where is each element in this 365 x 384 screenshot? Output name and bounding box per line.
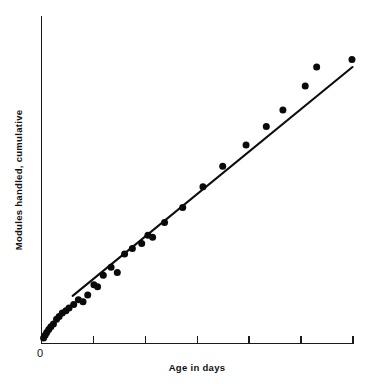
data-point	[108, 264, 115, 271]
data-point	[161, 219, 168, 226]
data-point	[129, 245, 136, 252]
data-point	[243, 141, 250, 148]
data-point	[179, 204, 186, 211]
data-point	[138, 240, 145, 247]
data-point	[279, 107, 286, 114]
data-point	[121, 250, 128, 257]
data-point	[94, 283, 101, 290]
data-point	[80, 298, 87, 305]
fit-line	[73, 67, 353, 296]
data-point	[263, 123, 270, 130]
data-point	[348, 56, 355, 63]
fit-line-segment	[73, 67, 353, 296]
scatter-plot: Age in days 0 Modules handled, cumulativ…	[0, 0, 365, 384]
data-point	[313, 64, 320, 71]
data-point	[100, 272, 107, 279]
origin-label: 0	[37, 347, 43, 359]
data-point	[149, 234, 156, 241]
x-axis-label: Age in days	[169, 362, 226, 373]
y-axis-label: Modules handled, cumulative	[13, 110, 24, 251]
data-point	[84, 291, 91, 298]
data-point	[302, 82, 309, 89]
data-points	[40, 56, 355, 342]
data-point	[219, 163, 226, 170]
x-axis-ticks	[93, 336, 353, 344]
chart-figure: Age in days 0 Modules handled, cumulativ…	[0, 0, 365, 384]
data-point	[114, 269, 121, 276]
data-point	[199, 183, 206, 190]
